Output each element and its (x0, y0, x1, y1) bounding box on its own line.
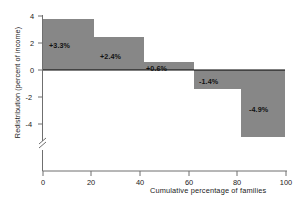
y-tick-label-0: 0 (18, 66, 34, 75)
x-tick-label-100: 100 (275, 178, 296, 187)
bar-80-100 (241, 70, 285, 137)
y-axis-title: Redistribution (percent of income) (13, 8, 22, 158)
y-tick-label-neg4: -4 (16, 120, 32, 129)
x-tick-label-20: 20 (80, 178, 102, 187)
bar-series (43, 19, 285, 137)
y-tick-label-2: 2 (18, 39, 34, 48)
x-axis-title: Cumulative percentage of families (150, 186, 266, 195)
y-tick-label-4: 4 (18, 12, 34, 21)
bar-label-40-60: +0.6% (146, 64, 167, 73)
x-tick-marks (43, 171, 286, 176)
x-tick-label-0: 0 (32, 178, 54, 187)
chart-canvas (0, 0, 296, 201)
chart-figure: Redistribution (percent of income) Cumul… (0, 0, 296, 201)
bar-label-20-40: +2.4% (100, 52, 121, 61)
x-tick-label-60: 60 (178, 178, 200, 187)
bar-label-60-80: -1.4% (199, 77, 218, 86)
x-tick-label-80: 80 (226, 178, 248, 187)
bar-label-0-20: +3.3% (49, 41, 70, 50)
bar-label-80-100: -4.9% (249, 105, 268, 114)
x-tick-label-40: 40 (129, 178, 151, 187)
y-tick-label-neg2: -2 (16, 93, 32, 102)
